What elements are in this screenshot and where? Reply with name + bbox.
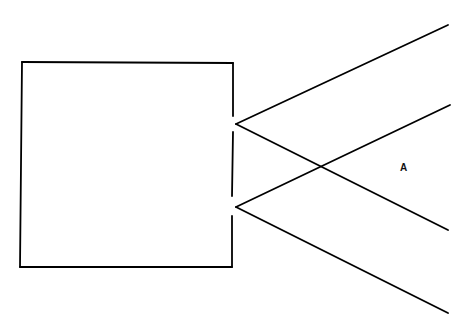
rectangle-right-edge-segment [232,132,233,196]
line-lower-vertex-to-bottom-right [236,207,448,313]
line-upper-vertex-to-top-right [236,25,448,124]
label-a: A [400,162,407,173]
line-upper-vertex-to-lower-right [236,124,448,230]
diagram-canvas: A [0,0,464,330]
rectangle-left-edge [20,62,22,267]
line-lower-vertex-to-upper-right [236,105,450,207]
rectangle-top-edge [22,62,233,63]
